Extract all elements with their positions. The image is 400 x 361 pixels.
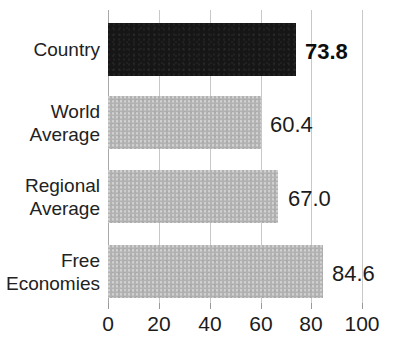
category-label-free-economies: Free Economies (0, 249, 100, 295)
tick-label-100: 100 (332, 311, 392, 336)
bar-chart: Country 73.8 World Average 60.4 Regional… (0, 0, 400, 361)
bar-country[interactable] (108, 23, 296, 76)
tick-mark-100 (362, 303, 363, 309)
tick-mark-80 (311, 303, 312, 309)
tick-mark-20 (159, 303, 160, 309)
value-label-regional-average: 67.0 (288, 188, 331, 210)
category-label-world-average: World Average (0, 100, 100, 146)
category-label-regional-average: Regional Average (0, 174, 100, 220)
value-label-world-average: 60.4 (270, 114, 313, 136)
tick-mark-0 (108, 303, 109, 309)
tick-mark-40 (210, 303, 211, 309)
bar-regional-average[interactable] (108, 170, 278, 223)
bar-world-average[interactable] (108, 96, 261, 149)
value-label-free-economies: 84.6 (332, 263, 375, 285)
category-label-country: Country (0, 38, 100, 61)
tick-mark-60 (261, 303, 262, 309)
plot-area: Country 73.8 World Average 60.4 Regional… (0, 0, 400, 361)
value-label-country: 73.8 (305, 41, 348, 63)
bar-free-economies[interactable] (108, 245, 323, 298)
